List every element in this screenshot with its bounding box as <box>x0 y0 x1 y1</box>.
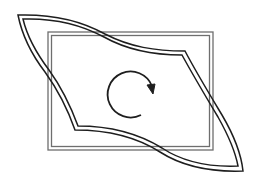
diagram-canvas: Rectangle with twisted (sheared) overlay… <box>0 0 257 179</box>
rotation-arrow-icon <box>108 71 155 117</box>
double-line-rectangle <box>48 32 213 150</box>
twisted-shape-inner-line <box>23 19 238 166</box>
rotation-arrowhead <box>147 84 155 94</box>
diagram-svg <box>0 0 257 179</box>
rotation-arrow-arc <box>108 71 152 117</box>
rectangle-outer-line <box>48 32 213 150</box>
